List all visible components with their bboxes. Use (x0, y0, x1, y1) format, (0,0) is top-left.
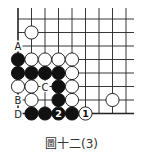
black-stone (52, 93, 65, 106)
move-number: 2 (55, 108, 62, 119)
white-stone (52, 53, 65, 66)
white-stone (25, 26, 38, 39)
figure-caption: 圖十二(3) (0, 134, 143, 151)
black-stone (38, 66, 51, 79)
point-label: C (42, 82, 49, 93)
white-stone (25, 93, 38, 106)
black-stone (25, 107, 38, 120)
white-stone (106, 93, 119, 106)
white-stone (11, 80, 24, 93)
white-stone (65, 66, 78, 79)
white-stone (25, 80, 38, 93)
white-stone (65, 53, 78, 66)
point-label: D (14, 109, 22, 120)
black-stone (11, 53, 24, 66)
point-label: B (15, 95, 22, 106)
black-stone (38, 107, 51, 120)
white-stone (25, 53, 38, 66)
move-number: 1 (82, 108, 89, 119)
go-board: ACBD21 (0, 0, 143, 130)
black-stone (11, 66, 24, 79)
white-stone (65, 93, 78, 106)
point-label: A (15, 41, 22, 52)
white-stone (65, 80, 78, 93)
black-stone (52, 66, 65, 79)
black-stone (52, 80, 65, 93)
black-stone (65, 107, 78, 120)
black-stone (25, 66, 38, 79)
white-stone (38, 53, 51, 66)
